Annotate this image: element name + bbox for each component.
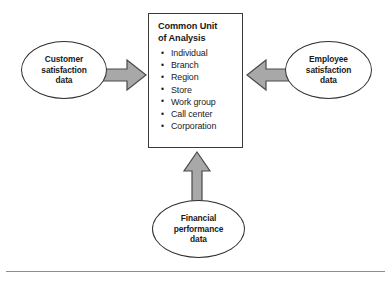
figure-divider bbox=[6, 271, 385, 272]
common-unit-box: Common Unit of Analysis Individual Branc… bbox=[148, 13, 243, 148]
common-unit-list: Individual Branch Region Store Work grou… bbox=[149, 47, 242, 132]
source-ellipse-financial-label: Financial performance data bbox=[174, 213, 224, 244]
source-ellipse-employee-label: Employee satisfaction data bbox=[306, 54, 351, 85]
list-item: Corporation bbox=[161, 120, 242, 132]
source-ellipse-financial: Financial performance data bbox=[152, 200, 245, 258]
source-ellipse-customer: Customer satisfaction data bbox=[21, 41, 107, 99]
list-item: Call center bbox=[161, 108, 242, 120]
list-item: Work group bbox=[161, 96, 242, 108]
list-item: Individual bbox=[161, 47, 242, 59]
source-ellipse-customer-label: Customer satisfaction data bbox=[41, 54, 86, 85]
list-item: Branch bbox=[161, 59, 242, 71]
common-unit-heading: Common Unit of Analysis bbox=[158, 21, 242, 44]
arrow-right-icon bbox=[100, 58, 148, 92]
list-item: Region bbox=[161, 71, 242, 83]
arrow-up-icon bbox=[182, 150, 212, 204]
list-item: Store bbox=[161, 84, 242, 96]
diagram-canvas: Customer satisfaction data Common Unit o… bbox=[0, 0, 391, 283]
source-ellipse-employee: Employee satisfaction data bbox=[285, 41, 372, 99]
